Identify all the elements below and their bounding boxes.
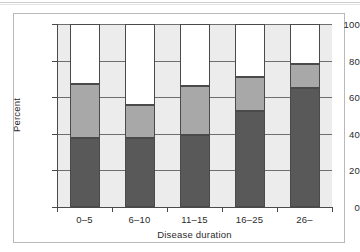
- y-tick: [52, 61, 57, 62]
- bar-segment-dark: [180, 135, 210, 207]
- x-tick: [167, 207, 168, 212]
- y-tick-label: 100: [316, 19, 360, 30]
- y-tick: [52, 24, 57, 25]
- bar-segment-medium-gray: [235, 77, 265, 111]
- y-tick: [52, 97, 57, 98]
- y-axis-title: Percent: [11, 98, 22, 132]
- x-tick-label: 0–5: [76, 214, 92, 225]
- bar-segment-dark: [235, 111, 265, 207]
- x-axis-line: [57, 207, 332, 208]
- bar: [235, 24, 265, 207]
- x-tick: [112, 207, 113, 212]
- x-tick: [332, 207, 333, 212]
- bar-segment-medium-gray: [125, 105, 155, 138]
- y-tick-label: 60: [316, 92, 360, 103]
- bar: [125, 24, 155, 207]
- x-tick: [277, 207, 278, 212]
- x-tick-label: 11–15: [181, 214, 208, 225]
- x-tick: [222, 207, 223, 212]
- y-tick-label: 40: [316, 128, 360, 139]
- bar: [70, 24, 100, 207]
- y-tick-label: 0: [316, 202, 360, 213]
- x-tick-label: 6–10: [129, 214, 151, 225]
- bar: [180, 24, 210, 207]
- y-tick-label: 80: [316, 55, 360, 66]
- x-axis-title: Disease duration: [57, 229, 332, 240]
- bar: [290, 24, 320, 207]
- figure: 020406080100 0–56–1011–1516–2526– Percen…: [0, 0, 360, 252]
- top-rule-secondary: [0, 4, 360, 5]
- y-tick: [52, 170, 57, 171]
- bar-segment-white: [70, 24, 100, 84]
- bar-segment-white: [290, 24, 320, 64]
- bar-segment-dark: [290, 88, 320, 207]
- bar-segment-white: [125, 24, 155, 105]
- bar-segment-medium-gray: [180, 86, 210, 134]
- bar-segment-medium-gray: [70, 84, 100, 138]
- y-tick-label: 20: [316, 165, 360, 176]
- y-axis-line: [57, 24, 58, 208]
- x-tick-label: 16–25: [236, 214, 263, 225]
- x-tick-label: 26–: [296, 214, 312, 225]
- y-tick: [52, 134, 57, 135]
- bar-segment-white: [235, 24, 265, 77]
- x-tick: [57, 207, 58, 212]
- bar-segment-white: [180, 24, 210, 86]
- bar-segment-dark: [70, 138, 100, 207]
- top-rule: [0, 2, 360, 3]
- bar-segment-dark: [125, 138, 155, 207]
- bar-segment-medium-gray: [290, 64, 320, 88]
